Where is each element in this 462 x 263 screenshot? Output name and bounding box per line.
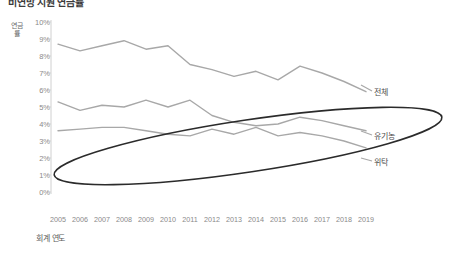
series-label-total: 전체 <box>374 86 388 97</box>
series-line-total <box>58 41 366 92</box>
highlight-ellipse <box>50 91 445 200</box>
series-line-consignment <box>58 127 366 147</box>
chart-container: 비연방 지원 연금률 연금률 10% 9% 8% 7% 6% 5% 4% 3% … <box>0 0 462 263</box>
series-label-consignment: 위탁 <box>374 156 388 167</box>
series-label-organic: 유기농 <box>374 130 394 141</box>
